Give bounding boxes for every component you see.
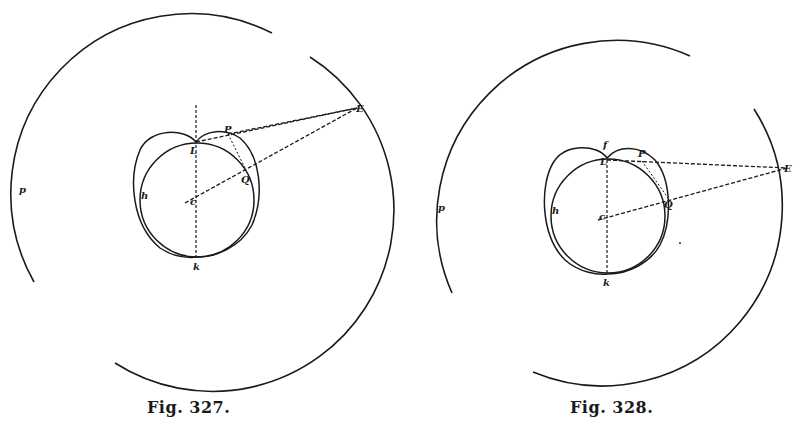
line-L-E xyxy=(196,108,357,142)
label-f: f xyxy=(602,139,609,150)
label-c: c xyxy=(190,196,196,207)
line-P-Q xyxy=(642,161,668,198)
label-k: k xyxy=(603,277,610,288)
line-P-Q xyxy=(228,134,246,170)
inner-circle xyxy=(551,159,665,273)
label-E: E xyxy=(355,103,364,114)
line-c-Q-E xyxy=(185,108,357,203)
figure-caption-328: Fig. 328. xyxy=(570,398,653,417)
label-p: p xyxy=(19,184,26,195)
label-E: E xyxy=(783,163,792,174)
label-p: p xyxy=(438,202,445,213)
stray-dot xyxy=(679,242,681,244)
line-L-E xyxy=(607,160,787,168)
label-L: L xyxy=(599,156,607,167)
label-Q: Q xyxy=(664,199,673,210)
figure-327 xyxy=(11,14,394,392)
inner-circle xyxy=(140,143,254,257)
label-h: h xyxy=(552,205,559,216)
label-L: L xyxy=(189,145,197,156)
label-P: P xyxy=(637,148,646,159)
outer-orbit-arc-right xyxy=(115,57,394,391)
diagram-canvas: E P L Q k h c p E P f L Q k h c p xyxy=(0,0,804,428)
outer-orbit-arc-right xyxy=(533,109,782,386)
figure-328 xyxy=(437,40,787,385)
label-k: k xyxy=(193,261,200,272)
figure-caption-327: Fig. 327. xyxy=(147,398,230,417)
figure-328-labels: E P f L Q k h c p xyxy=(438,139,792,288)
label-c: c xyxy=(599,211,605,222)
label-h: h xyxy=(141,190,148,201)
label-P: P xyxy=(223,124,232,135)
figure-327-labels: E P L Q k h c p xyxy=(19,103,364,272)
line-c-Q-E xyxy=(598,168,787,220)
label-Q: Q xyxy=(241,174,250,185)
